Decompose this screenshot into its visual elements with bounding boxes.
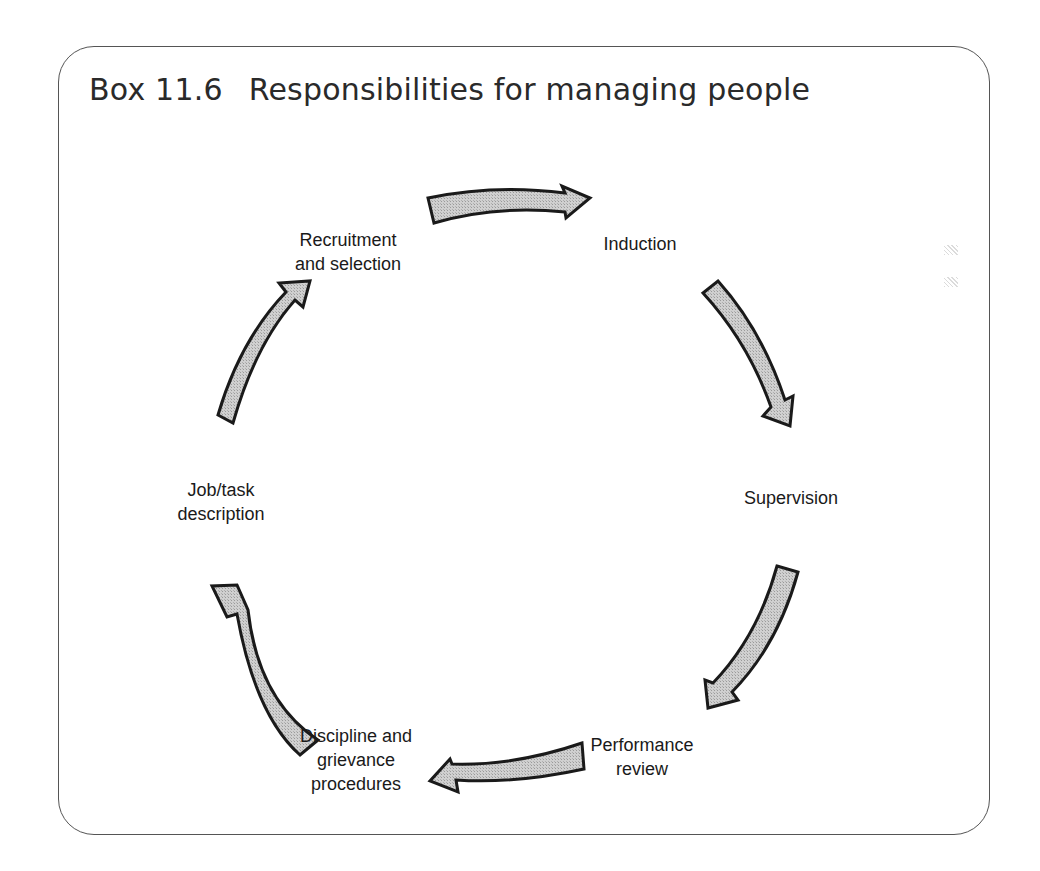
stage-label-line: Discipline and <box>288 724 424 748</box>
scan-artifact <box>944 277 958 287</box>
stage-induction: Induction <box>588 232 692 256</box>
stage-discipline-and-grievance-procedures: Discipline and grievance procedures <box>288 724 424 796</box>
arrow-supervision-to-performance-review <box>705 566 798 708</box>
stage-performance-review: Performance review <box>580 733 704 781</box>
stage-job-task-description: Job/task description <box>166 478 276 526</box>
stage-label-line: Performance <box>580 733 704 757</box>
arrow-induction-to-supervision <box>703 281 793 426</box>
stage-label-line: Induction <box>588 232 692 256</box>
stage-label-line: Job/task <box>166 478 276 502</box>
stage-label-line: description <box>166 502 276 526</box>
arrow-performance-review-to-discipline <box>430 743 584 792</box>
stage-label-line: review <box>580 757 704 781</box>
arrow-job-description-to-recruitment <box>218 281 310 423</box>
stage-recruitment-and-selection: Recruitment and selection <box>274 228 422 276</box>
scan-artifact <box>944 245 958 255</box>
stage-label-line: and selection <box>274 252 422 276</box>
arrow-recruitment-to-induction <box>428 186 590 223</box>
stage-supervision: Supervision <box>731 486 851 510</box>
stage-label-line: Recruitment <box>274 228 422 252</box>
stage-label-line: Supervision <box>731 486 851 510</box>
stage-label-line: procedures <box>288 772 424 796</box>
cycle-arrows <box>0 0 1040 871</box>
stage-label-line: grievance <box>288 748 424 772</box>
